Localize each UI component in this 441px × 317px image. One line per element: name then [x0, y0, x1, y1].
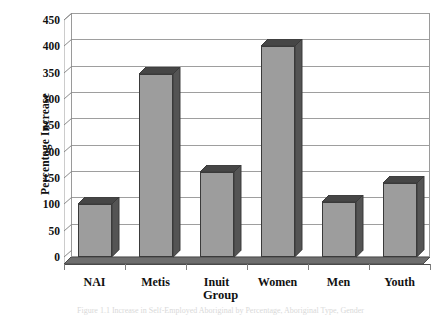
plot-area: 050100150200250300350400450 NAIMetisInui…	[64, 13, 430, 264]
bar-front-face	[200, 172, 234, 257]
bar-front-face	[322, 202, 356, 257]
x-tick	[369, 264, 370, 270]
gridline	[72, 118, 429, 119]
bar-front-face	[78, 204, 112, 257]
y-tick-label: 50	[49, 225, 61, 237]
gridline	[72, 145, 429, 146]
x-tick	[308, 264, 309, 270]
bar-nai	[78, 204, 112, 257]
bar-inuit	[200, 172, 234, 257]
y-tick-label: 150	[43, 172, 60, 184]
bar-front-face	[261, 46, 295, 257]
bar-metis	[139, 74, 173, 257]
y-tick-label: 100	[43, 198, 60, 210]
y-tick-label: 200	[43, 146, 60, 158]
bar-front-face	[139, 74, 173, 257]
y-tick-label: 250	[43, 119, 60, 131]
gridline	[72, 66, 429, 67]
x-tick	[64, 264, 65, 270]
x-tick	[430, 264, 431, 270]
bar-chart-figure: Percentage Increase 05010015020025030035…	[0, 0, 441, 317]
bar-men	[322, 202, 356, 257]
gridline	[72, 92, 429, 93]
gridline	[72, 224, 429, 225]
y-tick-label: 0	[54, 251, 60, 263]
y-tick-label: 450	[43, 14, 60, 26]
back-wall-panel	[71, 13, 430, 257]
x-tick	[247, 264, 248, 270]
bar-women	[261, 46, 295, 257]
y-tick-label: 400	[43, 40, 60, 52]
x-tick	[125, 264, 126, 270]
y-tick-label: 350	[43, 67, 60, 79]
bar-youth	[383, 183, 417, 257]
figure-caption: Figure 1.1 Increase in Self-Employed Abo…	[0, 306, 441, 315]
gridline	[72, 39, 429, 40]
x-tick	[186, 264, 187, 270]
x-axis-title: Group	[0, 288, 441, 303]
bar-front-face	[383, 183, 417, 257]
gridline	[72, 13, 429, 14]
gridline	[72, 171, 429, 172]
gridline	[72, 197, 429, 198]
floor-panel	[64, 257, 430, 264]
y-tick-label: 300	[43, 93, 60, 105]
